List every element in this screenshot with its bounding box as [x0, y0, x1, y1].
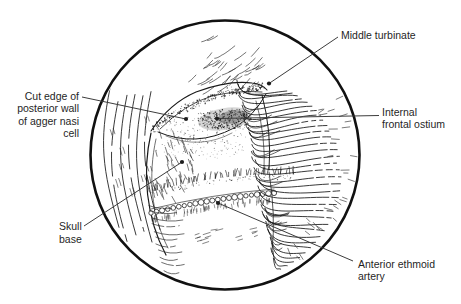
label-line: of agger nasi [2, 115, 79, 127]
leader-anterior-ethmoid-artery [218, 203, 353, 261]
figure-endoscopic-view: Middle turbinate Internal frontal ostium… [0, 0, 461, 304]
label-anterior-ethmoid-artery: Anterior ethmoid artery [358, 258, 435, 283]
anatomy-sketch [104, 36, 358, 274]
label-middle-turbinate: Middle turbinate [341, 29, 416, 41]
label-line: Internal [382, 106, 445, 118]
label-line: artery [358, 270, 435, 282]
endoscope-circle-border [91, 21, 360, 290]
label-skull-base: Skull base [59, 220, 82, 246]
dot-internal-frontal-ostium [215, 116, 219, 120]
label-line: Skull [59, 220, 82, 233]
label-line: Cut edge of [2, 90, 79, 102]
label-line: cell [2, 127, 79, 139]
label-line: posterior wall [2, 102, 79, 114]
leader-middle-turbinate [269, 37, 338, 84]
dot-cut-edge-agger-nasi [184, 117, 188, 121]
label-internal-frontal-ostium: Internal frontal ostium [382, 106, 445, 131]
label-line: base [59, 233, 82, 246]
leader-lines [82, 37, 379, 261]
dot-anterior-ethmoid-artery [216, 201, 220, 205]
label-line: frontal ostium [382, 118, 445, 130]
label-cut-edge-agger-nasi: Cut edge of posterior wall of agger nasi… [2, 90, 79, 140]
label-line: Anterior ethmoid [358, 258, 435, 270]
dot-skull-base [180, 160, 184, 164]
dot-middle-turbinate [267, 81, 271, 85]
label-line: Middle turbinate [341, 29, 416, 41]
